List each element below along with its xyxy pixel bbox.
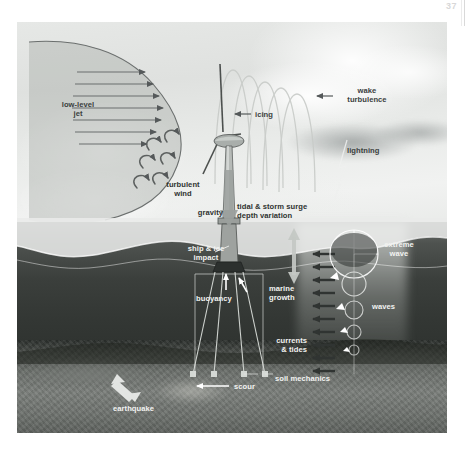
- label-turbulent-wind: turbulent wind: [153, 180, 213, 199]
- label-lightning: lightning: [347, 146, 380, 155]
- label-currents-tides: currents & tides: [255, 336, 307, 355]
- foundation-jacket-legs: [193, 272, 265, 374]
- foundation-hub: [213, 262, 245, 272]
- currents-tides-arrows: [313, 254, 335, 371]
- label-icing: icing: [255, 110, 273, 119]
- turbine-nacelle: [214, 135, 244, 148]
- label-marine-growth: marine growth: [269, 284, 295, 303]
- page-edge-rule-inner: [461, 0, 462, 26]
- label-earthquake: earthquake: [113, 404, 154, 413]
- label-waves: waves: [372, 302, 395, 311]
- lightning-bolt-icon: [335, 140, 347, 198]
- earthquake-arrow: [111, 374, 141, 402]
- label-wake-turbulence: wake turbulence: [335, 86, 399, 105]
- label-scour: scour: [234, 382, 255, 391]
- figure-offshore-wind-turbine-loads: low-level jet icing wake turbulence ligh…: [17, 22, 447, 433]
- label-tidal-storm-surge: tidal & storm surge depth variation: [237, 202, 307, 221]
- buoyancy-extent-box: [195, 274, 263, 376]
- label-ship-ice-impact: ship & ice impact: [179, 244, 233, 263]
- wave-orbit-arrowheads: [330, 272, 350, 352]
- label-low-level-jet: low-level jet: [47, 100, 109, 119]
- label-gravity: gravity: [165, 208, 223, 217]
- label-soil-mechanics: soil mechanics: [275, 374, 330, 383]
- label-extreme-wave: extreme wave: [371, 240, 427, 259]
- page-number: 37: [446, 1, 457, 11]
- diagram-vector-overlay: [17, 22, 447, 433]
- label-buoyancy: buoyancy: [196, 294, 232, 303]
